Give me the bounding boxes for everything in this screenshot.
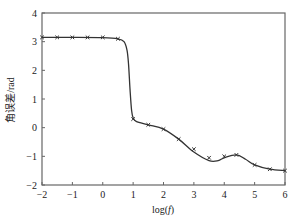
x-tick-label: 5 xyxy=(252,189,257,200)
chart: −2−10123456−2−101234 log(f) 角误差/rad xyxy=(0,0,297,221)
x-tick-label: −1 xyxy=(67,189,78,200)
x-tick-label: 6 xyxy=(283,189,288,200)
y-tick-label: −1 xyxy=(26,151,37,162)
x-tick-label: 0 xyxy=(100,189,105,200)
y-tick-label: 3 xyxy=(32,36,37,47)
y-tick-label: −2 xyxy=(26,180,37,191)
x-tick-label: 3 xyxy=(191,189,196,200)
chart-background xyxy=(0,0,297,221)
y-axis-title: 角误差/rad xyxy=(4,77,16,123)
y-tick-label: 4 xyxy=(32,8,37,19)
x-tick-label: −2 xyxy=(37,189,48,200)
y-tick-label: 1 xyxy=(32,94,37,105)
x-tick-label: 4 xyxy=(222,189,227,200)
x-tick-label: 2 xyxy=(161,189,166,200)
x-axis-title: log(f) xyxy=(152,204,174,216)
y-tick-label: 2 xyxy=(32,65,37,76)
x-tick-label: 1 xyxy=(131,189,136,200)
y-tick-label: 0 xyxy=(32,122,37,133)
